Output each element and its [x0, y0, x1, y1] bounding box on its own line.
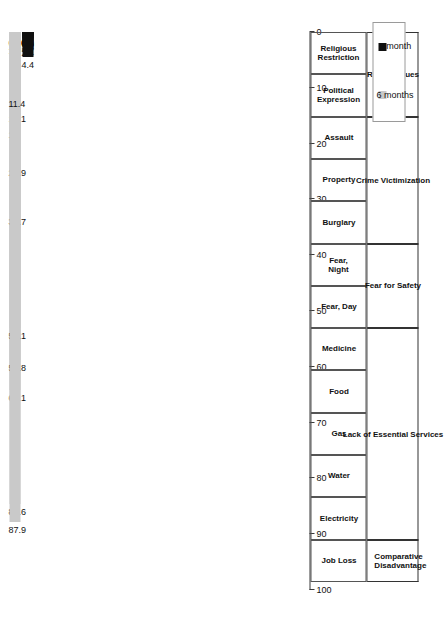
- axis-tick: [309, 589, 314, 590]
- category-label-cell: Religious Restriction: [310, 32, 366, 74]
- group-label-text: Crime Victimization: [332, 176, 448, 185]
- group-label-text: Comparative Disadvantage: [374, 552, 410, 570]
- bar-6-months: [9, 32, 20, 96]
- bar-group: 84.60.8: [0, 244, 309, 286]
- group-label-cell: Fear for Safety: [366, 244, 418, 329]
- category-label-cell: Fear, Day: [310, 286, 366, 328]
- group-label-cell: Crime Victimization: [366, 117, 418, 244]
- bar-group: 0.50.3: [0, 117, 309, 159]
- bar-group: 58.81.4: [0, 286, 309, 328]
- legend-label-1-month: 1 month: [378, 42, 411, 51]
- category-label-text: Religious Restriction: [317, 44, 359, 62]
- group-label-cell: Lack of Essential Services: [366, 328, 418, 540]
- category-label-text: Burglary: [318, 218, 358, 227]
- category-label-text: Food: [318, 387, 358, 396]
- bar-1-month: [22, 32, 33, 35]
- bar-value-label-6-months: 11.4: [8, 100, 25, 109]
- bar-value-label-1-month: 2.4: [21, 49, 34, 58]
- legend-label-6-months: 6 months: [376, 91, 413, 100]
- category-label-cell: Assault: [310, 117, 366, 159]
- group-label-text: Fear for Safety: [353, 281, 432, 290]
- category-label-text: Fear, Day: [318, 303, 358, 312]
- category-label-text: Job Loss: [318, 556, 358, 565]
- bar-group: 11.40.3: [0, 540, 309, 582]
- category-label-cell: Burglary: [310, 201, 366, 243]
- bar-value-label-1-month: 4.4: [21, 61, 34, 70]
- legend-item-1-month: 1 month: [378, 30, 399, 63]
- bar-value-label-1-month: 0.3: [21, 39, 34, 48]
- category-label-text: Medicine: [318, 345, 358, 354]
- bar-group: 1.31.1: [0, 159, 309, 201]
- category-label-text: Assault: [318, 133, 358, 142]
- bar-group: 23.90.8: [0, 328, 309, 370]
- category-label-text: Water: [318, 472, 358, 481]
- category-label-cell: Food: [310, 370, 366, 412]
- category-label-cell: Water: [310, 455, 366, 497]
- category-label-text: Political Expression: [316, 86, 359, 104]
- group-label-text: Lack of Essential Services: [292, 429, 448, 438]
- bar-group: 170.6: [0, 370, 309, 412]
- bar-group: 14.10.2: [0, 32, 309, 74]
- category-label-cell: Medicine: [310, 328, 366, 370]
- category-label-text: Fear, Night: [318, 256, 358, 274]
- bar-group: 64.11.3: [0, 74, 309, 116]
- bar-value-label-6-months: 87.9: [8, 527, 26, 536]
- bar-group: 32.71.7: [0, 413, 309, 455]
- axis-tick-label: 100: [316, 586, 331, 595]
- bar-group: 1.90.1: [0, 201, 309, 243]
- category-label-text: Electricity: [318, 514, 358, 523]
- group-label-cell: Comparative Disadvantage: [366, 540, 418, 582]
- legend-item-6-months: 6 months: [378, 77, 399, 114]
- category-label-cell: Political Expression: [310, 74, 366, 116]
- category-label-cell: Fear, Night: [310, 244, 366, 286]
- chart-legend: 1 month 6 months: [372, 22, 405, 122]
- bar-group: 87.92.4: [0, 497, 309, 539]
- bar-group: 53.14.4: [0, 455, 309, 497]
- category-label-cell: Electricity: [310, 497, 366, 539]
- category-label-cell: Job Loss: [310, 540, 366, 582]
